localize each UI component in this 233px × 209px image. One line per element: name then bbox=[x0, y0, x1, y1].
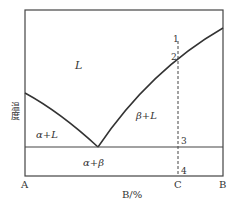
point-2-label: 2 bbox=[171, 52, 177, 62]
point-3-label: 3 bbox=[181, 136, 187, 146]
point-4-label: 4 bbox=[181, 166, 187, 176]
diagram-frame bbox=[25, 10, 223, 176]
region-alpha-beta-label: α+β bbox=[83, 157, 104, 168]
tick-a-label: A bbox=[20, 179, 29, 190]
right-liquidus-line bbox=[98, 28, 223, 147]
y-axis-label: 温度 bbox=[10, 102, 20, 121]
phase-diagram: L α+L β+L α+β 1 2 3 4 A C B B/% 温度 bbox=[0, 0, 233, 209]
region-beta-liquid-label: β+L bbox=[135, 110, 157, 121]
tick-b-label: B bbox=[219, 179, 226, 190]
point-1-label: 1 bbox=[173, 34, 179, 44]
region-liquid-label: L bbox=[74, 59, 82, 72]
tick-c-label: C bbox=[174, 179, 182, 190]
x-axis-label: B/% bbox=[122, 189, 142, 200]
region-alpha-liquid-label: α+L bbox=[36, 129, 58, 140]
